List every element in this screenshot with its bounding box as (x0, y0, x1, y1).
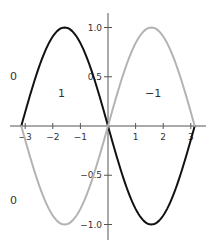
x-tick-label: −1 (74, 132, 87, 142)
region-label: 1 (58, 87, 65, 100)
region-label: 0 (10, 70, 17, 83)
region-label: −1 (145, 87, 161, 100)
x-tick-label: 1 (133, 132, 139, 142)
y-tick-label: −1.0 (80, 220, 102, 230)
x-tick-label: −2 (46, 132, 59, 142)
chart-canvas: −3−2−1123 1.00.5−0.5−1.0 01−10 (0, 0, 213, 250)
x-tick-label: 2 (160, 132, 166, 142)
y-tick-label: 1.0 (88, 23, 103, 33)
region-label: 0 (10, 194, 17, 207)
y-tick-label: −0.5 (80, 170, 102, 180)
